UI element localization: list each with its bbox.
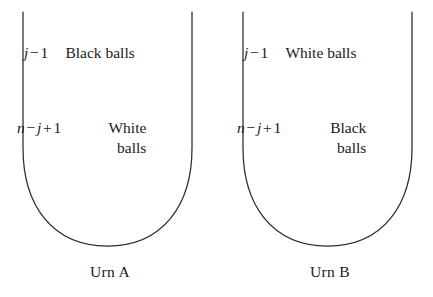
urn-b-bottom-count-op1: − bbox=[245, 119, 257, 136]
urn-a-bottom-count-op1: − bbox=[25, 119, 37, 136]
urn-diagram-figure: j−1 Black balls n−j+1 White balls Urn A … bbox=[0, 0, 433, 297]
urn-b-caption: Urn B bbox=[220, 263, 433, 281]
urn-b-bottom-contents: Black balls bbox=[302, 118, 366, 158]
urn-b-bottom-count-op2: + bbox=[261, 119, 273, 136]
urn-a-top-contents: Black balls bbox=[65, 43, 134, 63]
urn-b-top-contents: White balls bbox=[285, 43, 356, 63]
urn-b-bottom-count-var1: n bbox=[237, 119, 245, 136]
urn-a-bottom-count-op2: + bbox=[41, 119, 53, 136]
urn-a-top-count-var: j bbox=[24, 44, 29, 61]
urn-a-bottom-count-var1: n bbox=[17, 119, 25, 136]
urn-a-top-count-op: − bbox=[29, 44, 41, 61]
urn-a-bottom-contents-line1: White bbox=[82, 118, 146, 138]
urn-a-caption: Urn A bbox=[0, 263, 218, 281]
urn-a-bottom-row: n−j+1 White balls bbox=[17, 118, 146, 158]
urn-b-bottom-count-num: 1 bbox=[273, 119, 281, 136]
urn-a-bottom-contents: White balls bbox=[82, 118, 146, 158]
urn-a-bottom-count-num: 1 bbox=[53, 119, 61, 136]
urn-a-top-count: j−1 bbox=[24, 43, 48, 63]
urn-b-bottom-count: n−j+1 bbox=[237, 118, 281, 138]
urn-b-top-count-op: − bbox=[249, 44, 261, 61]
urn-a-bottom-count: n−j+1 bbox=[17, 118, 61, 138]
urn-a-top-contents-line1: Black balls bbox=[65, 43, 134, 63]
urn-b-group: j−1 White balls n−j+1 Black balls Urn B bbox=[220, 0, 433, 297]
urn-b-top-count: j−1 bbox=[244, 43, 268, 63]
urn-b-top-contents-line1: White balls bbox=[285, 43, 356, 63]
urn-a-group: j−1 Black balls n−j+1 White balls Urn A bbox=[0, 0, 216, 297]
urn-b-top-count-var: j bbox=[244, 44, 249, 61]
urn-a-bottom-contents-line2: balls bbox=[82, 138, 146, 158]
urn-a-top-row: j−1 Black balls bbox=[24, 43, 135, 63]
urn-b-top-count-num: 1 bbox=[260, 44, 268, 61]
urn-b-bottom-contents-line1: Black bbox=[302, 118, 366, 138]
urn-a-top-count-num: 1 bbox=[40, 44, 48, 61]
urn-b-top-row: j−1 White balls bbox=[244, 43, 356, 63]
urn-b-bottom-row: n−j+1 Black balls bbox=[237, 118, 366, 158]
urn-b-bottom-contents-line2: balls bbox=[302, 138, 366, 158]
